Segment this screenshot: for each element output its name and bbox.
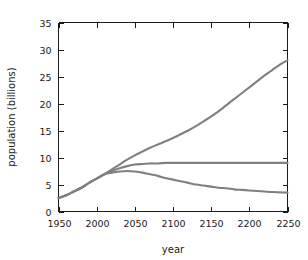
- x-tick-label-2000: 2000: [85, 218, 109, 229]
- x-tick-label-1950: 1950: [47, 218, 71, 229]
- y-tick-label-25: 25: [39, 72, 51, 83]
- x-tick-label-2250: 2250: [276, 218, 300, 229]
- y-tick-label-15: 15: [39, 126, 51, 137]
- chart-canvas: 05101520253035 1950200020502100215022002…: [0, 0, 308, 260]
- x-tick-label-2200: 2200: [237, 218, 261, 229]
- population-projection-chart: 05101520253035 1950200020502100215022002…: [0, 0, 308, 260]
- y-tick-label-10: 10: [39, 153, 51, 164]
- y-axis-title: population (billions): [6, 67, 17, 166]
- y-tick-label-0: 0: [45, 207, 51, 218]
- x-tick-label-2150: 2150: [199, 218, 223, 229]
- x-axis-title: year: [162, 244, 185, 255]
- x-tick-label-2050: 2050: [123, 218, 147, 229]
- y-tick-label-20: 20: [39, 99, 51, 110]
- x-tick-label-2100: 2100: [161, 218, 185, 229]
- y-tick-label-5: 5: [45, 180, 51, 191]
- y-tick-label-35: 35: [39, 18, 51, 29]
- y-tick-label-30: 30: [39, 45, 51, 56]
